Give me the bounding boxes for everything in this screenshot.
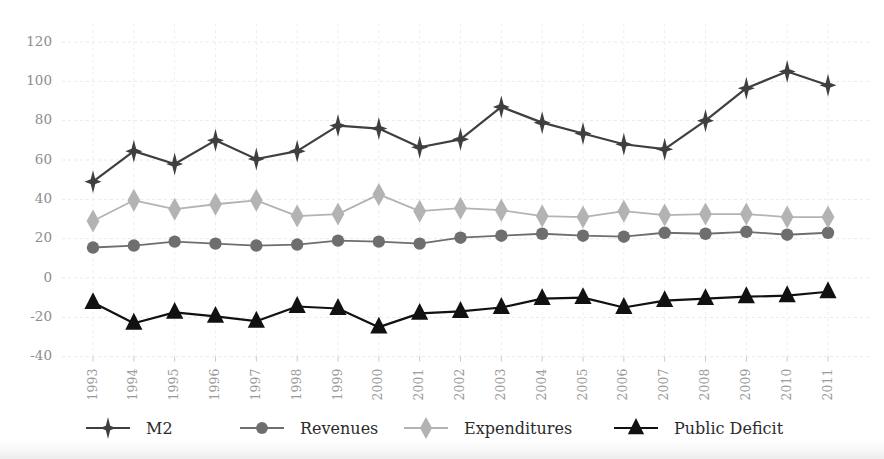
data-point-circle-icon [87, 241, 99, 253]
x-axis-ticks: 1993199419951996199719981999200020012002… [85, 369, 835, 401]
data-point-diamond-icon [536, 205, 549, 228]
legend-item[interactable]: Expenditures [404, 417, 572, 439]
data-point-diamond-icon [781, 206, 794, 229]
legend-item[interactable]: Revenues [240, 419, 378, 438]
data-point-diamond-icon [291, 205, 304, 228]
y-axis-tick-label: 40 [35, 190, 52, 206]
data-point-triangle-icon [697, 288, 714, 305]
x-axis-tick-label: 1993 [85, 369, 100, 401]
x-axis-tick-label: 1995 [166, 369, 181, 401]
data-point-triangle-icon [166, 302, 183, 319]
legend-circle-icon [256, 422, 268, 434]
x-axis-tick-label: 1996 [207, 369, 222, 401]
data-point-star-icon [166, 152, 183, 175]
data-point-circle-icon [740, 226, 752, 238]
legend-label: Public Deficit [674, 419, 784, 438]
data-point-star-icon [738, 77, 755, 100]
series-layer [84, 60, 836, 334]
data-point-star-icon [575, 122, 592, 145]
data-point-triangle-icon [289, 296, 306, 313]
x-axis-tick-label: 2004 [534, 369, 549, 401]
legend-item[interactable]: Public Deficit [614, 418, 784, 437]
legend-diamond-icon [420, 417, 432, 439]
legend-triangle-icon [628, 418, 644, 434]
x-axis-tick-label: 2007 [656, 369, 671, 401]
data-point-diamond-icon [127, 189, 140, 212]
data-point-triangle-icon [207, 306, 224, 323]
y-axis-tick-label: 100 [26, 72, 52, 88]
data-point-circle-icon [250, 239, 262, 251]
y-axis-tick-label: -40 [30, 347, 52, 363]
data-point-star-icon [370, 117, 387, 140]
x-axis-tick-label: 2006 [615, 369, 630, 401]
data-point-circle-icon [699, 228, 711, 240]
data-point-circle-icon [413, 237, 425, 249]
data-point-diamond-icon [699, 203, 712, 226]
data-point-triangle-icon [534, 288, 551, 305]
data-point-diamond-icon [372, 183, 385, 206]
data-point-diamond-icon [454, 197, 467, 220]
data-point-star-icon [125, 140, 142, 163]
legend-item[interactable]: M2 [86, 417, 173, 439]
y-axis-ticks: 120100806040200-20-40 [26, 33, 52, 364]
data-point-triangle-icon [84, 292, 101, 309]
data-point-triangle-icon [574, 287, 591, 304]
x-axis-tick-label: 1994 [125, 369, 140, 401]
data-point-triangle-icon [779, 285, 796, 302]
y-axis-tick-label: 0 [43, 269, 52, 285]
data-point-triangle-icon [411, 303, 428, 320]
data-point-star-icon [534, 111, 551, 134]
data-point-circle-icon [332, 234, 344, 246]
x-axis-tick-label: 2009 [738, 369, 753, 401]
data-point-diamond-icon [168, 198, 181, 221]
data-point-circle-icon [536, 228, 548, 240]
x-axis-tick-label: 2011 [820, 369, 835, 401]
x-axis-tick-label: 2002 [452, 369, 467, 401]
data-point-triangle-icon [452, 301, 469, 318]
x-axis-tick-label: 1997 [248, 369, 263, 401]
data-point-diamond-icon [658, 204, 671, 227]
y-axis-tick-label: 120 [26, 33, 52, 49]
x-axis-tick-label: 2000 [370, 369, 385, 401]
data-point-triangle-icon [738, 286, 755, 303]
data-point-triangle-icon [819, 281, 836, 298]
data-point-circle-icon [373, 235, 385, 247]
chart-container: 120100806040200-20-40 199319941995199619… [0, 0, 884, 459]
data-point-star-icon [248, 148, 265, 171]
data-point-triangle-icon [656, 290, 673, 307]
chart-series [87, 183, 835, 233]
data-point-circle-icon [577, 230, 589, 242]
data-point-diamond-icon [87, 209, 100, 232]
line-chart: 120100806040200-20-40 199319941995199619… [0, 0, 884, 459]
y-axis-tick-label: 60 [35, 151, 52, 167]
data-point-circle-icon [168, 235, 180, 247]
data-point-diamond-icon [413, 200, 426, 223]
data-point-star-icon [615, 133, 632, 156]
y-axis-tick-label: 80 [35, 111, 52, 127]
data-point-diamond-icon [209, 193, 222, 216]
data-point-circle-icon [495, 230, 507, 242]
data-point-diamond-icon [822, 206, 835, 229]
legend-label: Revenues [300, 419, 378, 438]
data-point-circle-icon [618, 231, 630, 243]
data-point-diamond-icon [740, 203, 753, 226]
data-point-circle-icon [291, 238, 303, 250]
data-point-circle-icon [209, 237, 221, 249]
x-axis-tick-label: 2008 [697, 369, 712, 401]
x-axis-tick-label: 2010 [779, 369, 794, 401]
data-point-diamond-icon [577, 206, 590, 229]
data-point-star-icon [330, 114, 347, 137]
data-point-star-icon [452, 128, 469, 151]
data-point-diamond-icon [495, 199, 508, 222]
data-point-star-icon [85, 170, 102, 193]
legend-label: Expenditures [464, 419, 572, 438]
data-point-star-icon [779, 60, 796, 83]
data-point-circle-icon [128, 239, 140, 251]
data-point-star-icon [493, 95, 510, 118]
x-axis-tick-label: 1998 [289, 369, 304, 401]
data-point-star-icon [656, 138, 673, 161]
data-point-star-icon [289, 140, 306, 163]
data-point-star-icon [697, 109, 714, 132]
y-axis-tick-label: 20 [35, 229, 52, 245]
x-axis-tick-label: 2001 [411, 369, 426, 401]
